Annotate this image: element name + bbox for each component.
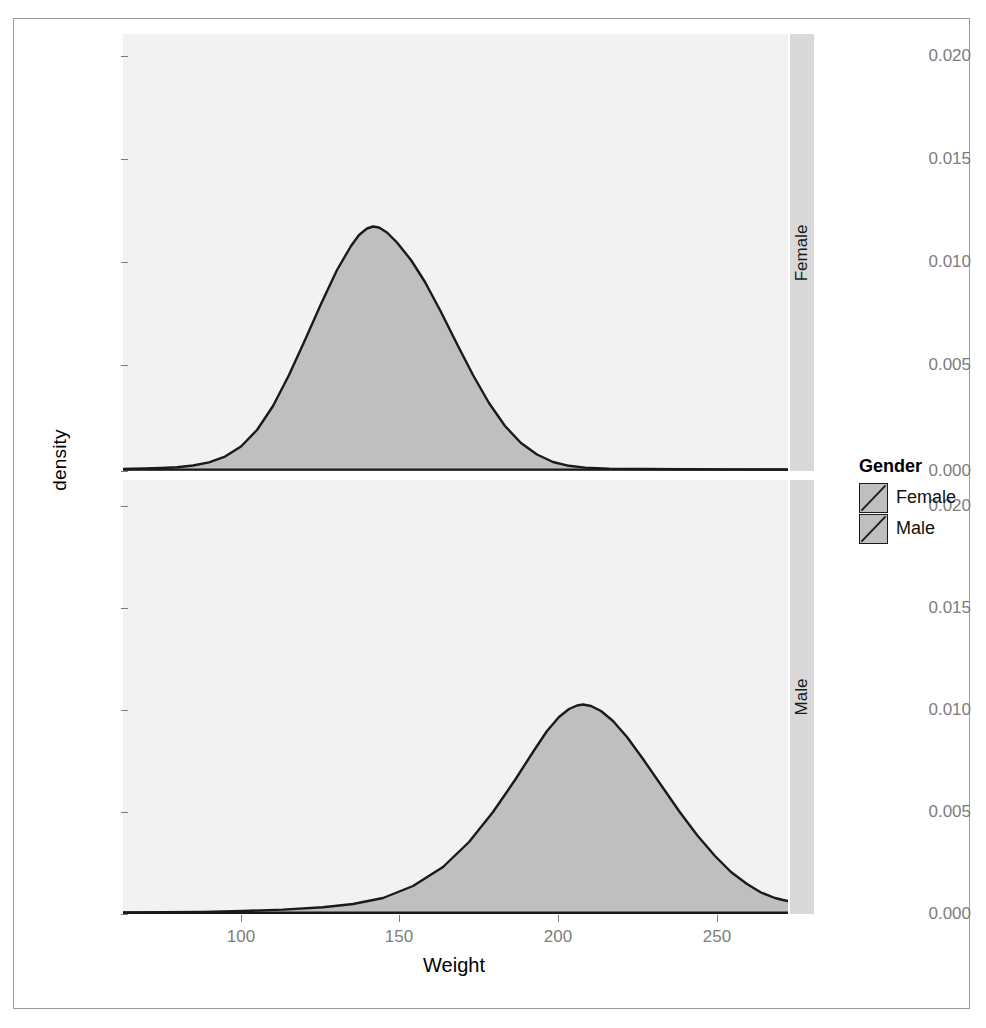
y-tick-label-male-0: 0.000 (893, 904, 971, 924)
y-tick-mark-female-2 (121, 262, 128, 263)
facet-strip-female: Female (790, 34, 814, 471)
y-tick-mark-male-0 (121, 914, 128, 915)
x-tick-mark-0 (241, 915, 242, 922)
y-tick-mark-male-1 (121, 812, 128, 813)
density-area-male (123, 480, 788, 914)
y-tick-label-female-2: 0.010 (893, 252, 971, 272)
facet-strip-label-male: Male (792, 679, 812, 716)
facet-panel-female (123, 34, 788, 471)
density-area-female (123, 34, 788, 471)
legend-label-male: Male (896, 518, 935, 539)
y-tick-mark-female-1 (121, 365, 128, 366)
facet-strip-male: Male (790, 480, 814, 914)
density-fill-male (123, 705, 788, 915)
legend-swatch-female-icon (859, 483, 888, 513)
y-tick-label-female-3: 0.015 (893, 149, 971, 169)
density-fill-female (123, 227, 788, 472)
y-tick-mark-male-3 (121, 608, 128, 609)
legend-item-female[interactable]: Female (859, 482, 969, 513)
legend-item-male[interactable]: Male (859, 513, 969, 544)
y-tick-label-female-1: 0.005 (893, 355, 971, 375)
y-tick-mark-female-3 (121, 159, 128, 160)
x-tick-mark-3 (717, 915, 718, 922)
x-tick-label-2: 200 (544, 927, 572, 947)
figure-frame: density Female Male 0.000 0.005 (13, 18, 970, 1009)
y-axis-title: density (49, 400, 71, 520)
y-tick-mark-female-0 (121, 471, 128, 472)
x-tick-label-1: 150 (385, 927, 413, 947)
y-tick-mark-male-4 (121, 506, 128, 507)
facet-panel-male (123, 480, 788, 914)
x-tick-mark-1 (399, 915, 400, 922)
y-tick-label-male-1: 0.005 (893, 802, 971, 822)
x-tick-label-3: 250 (703, 927, 731, 947)
y-tick-label-female-4: 0.020 (893, 46, 971, 66)
x-axis-title: Weight (124, 954, 784, 977)
legend-swatch-male-icon (859, 514, 888, 544)
density-plot-canvas: density Female Male 0.000 0.005 (14, 19, 971, 1010)
x-tick-mark-2 (558, 915, 559, 922)
legend-label-female: Female (896, 487, 956, 508)
y-tick-label-male-2: 0.010 (893, 700, 971, 720)
legend: Gender Female Male (859, 456, 969, 544)
legend-title: Gender (859, 456, 969, 477)
y-tick-label-male-3: 0.015 (893, 598, 971, 618)
x-tick-label-0: 100 (227, 927, 255, 947)
y-tick-mark-female-4 (121, 56, 128, 57)
y-tick-mark-male-2 (121, 710, 128, 711)
facet-strip-label-female: Female (792, 224, 812, 281)
